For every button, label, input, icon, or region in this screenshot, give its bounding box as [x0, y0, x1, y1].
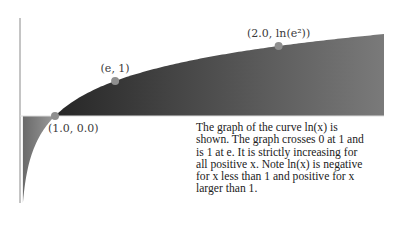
point-marker	[51, 112, 59, 120]
point-label: (1.0, 0.0)	[48, 122, 99, 135]
point-label: (e, 1)	[101, 62, 130, 75]
description-line: shown. The graph crosses 0 at 1 and	[196, 134, 382, 146]
positive-area-fill	[55, 34, 384, 116]
description-line: larger than 1.	[196, 183, 382, 195]
point-label: (2.0, ln(e²))	[247, 27, 310, 40]
point-marker	[275, 42, 283, 50]
description-box: The graph of the curve ln(x) is shown. T…	[192, 119, 386, 199]
point-marker	[111, 77, 119, 85]
